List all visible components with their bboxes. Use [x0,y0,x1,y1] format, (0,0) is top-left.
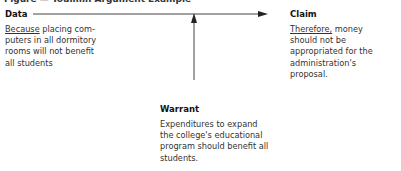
claim-lead: Therefore, [290,24,332,34]
claim-heading: Claim [290,9,317,19]
warrant-heading: Warrant [160,104,199,114]
data-text: Because placing com- puters in all dormi… [5,24,105,69]
warrant-text: Expenditures to expand the college's edu… [160,119,272,164]
claim-text: Therefore, money should not be appropria… [290,24,390,80]
data-lead: Because [5,24,40,34]
arrow-right-icon [258,11,268,17]
data-heading: Data [5,9,28,19]
